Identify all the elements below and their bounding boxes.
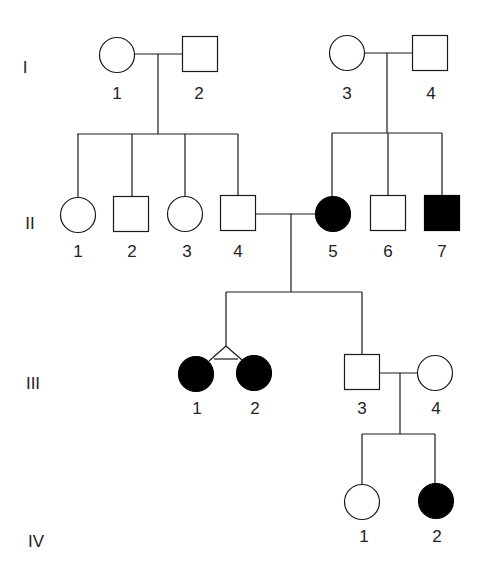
male-square-unaffected-icon bbox=[114, 197, 149, 232]
individual-label-IV-1: 1 bbox=[359, 527, 368, 546]
female-circle-unaffected-icon bbox=[330, 36, 365, 71]
individual-label-I-4: 4 bbox=[426, 84, 435, 103]
female-circle-affected-icon bbox=[179, 357, 214, 392]
individual-label-II-3: 3 bbox=[182, 242, 191, 261]
female-circle-unaffected-icon bbox=[100, 38, 135, 73]
individual-label-II-4: 4 bbox=[233, 242, 242, 261]
individual-label-III-2: 2 bbox=[250, 399, 259, 418]
male-square-unaffected-icon bbox=[345, 355, 380, 390]
individual-label-III-3: 3 bbox=[357, 399, 366, 418]
individual-label-I-1: 1 bbox=[112, 84, 121, 103]
generation-label-III: III bbox=[26, 374, 40, 393]
male-square-unaffected-icon bbox=[371, 196, 406, 231]
male-square-affected-icon bbox=[425, 196, 460, 231]
individual-label-I-3: 3 bbox=[342, 84, 351, 103]
generation-label-IV: IV bbox=[28, 532, 45, 551]
connector-lines bbox=[77, 53, 442, 485]
female-circle-unaffected-icon bbox=[345, 485, 380, 520]
individual-label-II-7: 7 bbox=[437, 242, 446, 261]
female-circle-affected-icon bbox=[419, 484, 454, 519]
individual-label-III-1: 1 bbox=[192, 399, 201, 418]
twin-branch-right bbox=[226, 346, 242, 360]
individual-label-I-2: 2 bbox=[194, 84, 203, 103]
female-circle-unaffected-icon bbox=[168, 197, 203, 232]
individual-label-II-6: 6 bbox=[383, 242, 392, 261]
generation-label-I: I bbox=[23, 58, 28, 77]
individual-label-III-4: 4 bbox=[431, 399, 440, 418]
individual-label-II-2: 2 bbox=[127, 242, 136, 261]
generation-label-II: II bbox=[25, 214, 34, 233]
individual-label-II-1: 1 bbox=[73, 242, 82, 261]
male-square-unaffected-icon bbox=[221, 196, 256, 231]
individual-labels: 12341234567123412 bbox=[73, 84, 446, 546]
pedigree-diagram: 12341234567123412 IIIIIIIV bbox=[0, 0, 482, 571]
generation-labels: IIIIIIIV bbox=[23, 58, 45, 551]
female-circle-affected-icon bbox=[316, 197, 351, 232]
male-square-unaffected-icon bbox=[183, 37, 218, 72]
female-circle-unaffected-icon bbox=[418, 356, 453, 391]
individual-symbols bbox=[61, 36, 460, 520]
female-circle-affected-icon bbox=[237, 356, 272, 391]
male-square-unaffected-icon bbox=[413, 36, 448, 71]
individual-label-IV-2: 2 bbox=[432, 527, 441, 546]
female-circle-unaffected-icon bbox=[61, 198, 96, 233]
individual-label-II-5: 5 bbox=[328, 242, 337, 261]
